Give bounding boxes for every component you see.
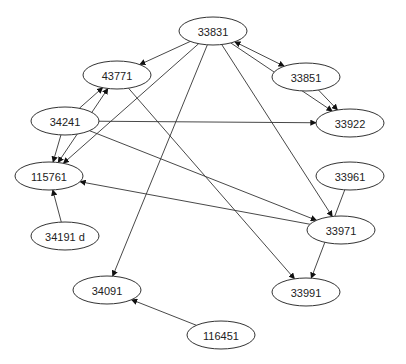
node-label: 33922 — [335, 118, 366, 130]
edge-33971-to-115761 — [80, 182, 310, 225]
edge-34241-to-43771 — [79, 88, 102, 109]
edge-34241-to-33922 — [99, 121, 316, 123]
network-graph: 3383143771338513424133922115761339613419… — [0, 0, 406, 364]
node-34091[interactable]: 34091 — [73, 276, 141, 304]
node-33831[interactable]: 33831 — [179, 17, 247, 45]
node-label: 34091 — [92, 285, 123, 297]
node-33922[interactable]: 33922 — [316, 109, 384, 137]
edge-116451-to-34091 — [132, 300, 197, 326]
nodes-layer: 3383143771338513424133922115761339613419… — [15, 17, 384, 349]
node-label: 43771 — [102, 70, 133, 82]
edge-34191d-to-115761 — [53, 190, 62, 222]
edge-34241-to-115761 — [53, 135, 61, 162]
node-116451[interactable]: 116451 — [187, 321, 255, 349]
node-33851[interactable]: 33851 — [272, 63, 340, 91]
node-34241[interactable]: 34241 — [31, 107, 99, 135]
node-label: 33991 — [291, 287, 322, 299]
node-115761[interactable]: 115761 — [15, 162, 83, 190]
node-label: 33851 — [291, 72, 322, 84]
node-label: 34241 — [50, 116, 81, 128]
edge-34241-to-33971 — [90, 131, 317, 221]
node-34191d[interactable]: 34191 d — [31, 222, 99, 250]
node-label: 34191 d — [45, 231, 85, 243]
edge-33851-to-33922 — [318, 90, 337, 110]
node-label: 33831 — [198, 26, 229, 38]
node-label: 33961 — [335, 171, 366, 183]
node-label: 116451 — [203, 330, 239, 342]
node-43771[interactable]: 43771 — [83, 61, 151, 89]
edge-43771-to-33991 — [128, 88, 294, 279]
node-label: 115761 — [31, 171, 67, 183]
node-33991[interactable]: 33991 — [272, 278, 340, 306]
edge-33831-to-43771 — [140, 41, 191, 64]
node-33971[interactable]: 33971 — [307, 216, 375, 244]
node-33961[interactable]: 33961 — [316, 162, 384, 190]
node-label: 33971 — [326, 225, 357, 237]
